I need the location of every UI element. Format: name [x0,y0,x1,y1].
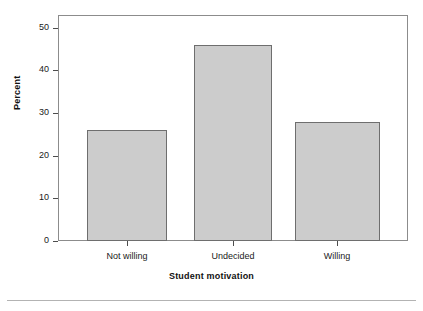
bar-willing [295,122,380,241]
bar-chart-figure: 50 40 30 20 10 0 Percent Not willing Und… [0,0,423,311]
bar-undecided [194,45,272,241]
x-tick-mark [233,241,234,246]
y-axis-title: Percent [12,76,22,110]
x-tick-mark [127,241,128,246]
y-tick-40: 40 [0,70,58,71]
y-tick-mark [53,28,58,29]
y-tick-mark [53,156,58,157]
x-tick-mark [337,241,338,246]
x-axis-title: Student motivation [0,271,423,281]
y-tick-10: 10 [0,198,58,199]
y-tick-20: 20 [0,156,58,157]
y-tick-label: 30 [39,106,49,119]
x-tick-label-willing: Willing [324,250,351,262]
bar-not-willing [87,130,167,241]
y-tick-mark [53,70,58,71]
y-tick-mark [53,198,58,199]
y-tick-label: 50 [39,21,49,34]
y-tick-label: 40 [39,63,49,76]
y-tick-label: 20 [39,149,49,162]
plot-area [58,15,408,241]
x-tick-label-not-willing: Not willing [106,250,147,262]
x-tick-label-undecided: Undecided [211,250,254,262]
y-tick-label: 10 [39,191,49,204]
y-tick-50: 50 [0,28,58,29]
y-tick-30: 30 [0,113,58,114]
y-tick-mark [53,113,58,114]
bottom-divider [7,300,416,301]
